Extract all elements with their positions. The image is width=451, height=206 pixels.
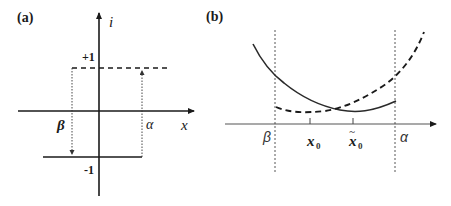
panel-a-alpha-label: α bbox=[146, 117, 154, 132]
svg-text:x: x bbox=[306, 133, 315, 149]
panel-b-label: (b) bbox=[206, 9, 223, 25]
plus-one-label: +1 bbox=[82, 50, 95, 64]
panel-a-x-axis-label: x bbox=[180, 117, 188, 133]
x0-label: x 0 bbox=[306, 133, 321, 151]
panel-b-beta-label: β bbox=[262, 129, 271, 145]
panel-a-beta-label: β bbox=[56, 117, 65, 133]
svg-text:0: 0 bbox=[358, 141, 363, 151]
panel-a-label: (a) bbox=[17, 10, 34, 26]
x0-tilde-label: x ~ 0 bbox=[348, 125, 363, 151]
solid-curve bbox=[253, 44, 396, 111]
panel-a: (a) i x +1 -1 β α bbox=[17, 10, 194, 196]
dashed-curve bbox=[276, 32, 424, 112]
hysteresis-figure: (a) i x +1 -1 β α (b) bbox=[0, 0, 451, 206]
figure-canvas: (a) i x +1 -1 β α (b) bbox=[0, 0, 451, 206]
panel-b: (b) β α x 0 x ~ 0 bbox=[206, 9, 436, 173]
tilde-mark: ~ bbox=[349, 125, 355, 137]
svg-text:0: 0 bbox=[316, 141, 321, 151]
panel-a-y-axis-label: i bbox=[109, 14, 113, 30]
panel-b-alpha-label: α bbox=[400, 129, 409, 145]
minus-one-label: -1 bbox=[84, 163, 94, 177]
